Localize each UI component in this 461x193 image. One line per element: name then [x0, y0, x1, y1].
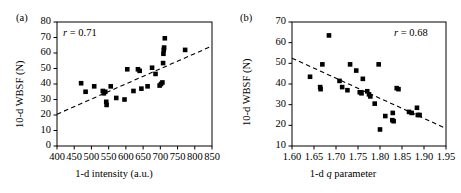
panel-b-x-axis-label: 1-d q parameter — [231, 168, 455, 179]
x-tick-label: 850 — [192, 151, 232, 162]
data-point — [108, 84, 113, 89]
data-point — [396, 87, 401, 92]
y-tick-label: 40 — [23, 77, 51, 88]
plot-frame — [292, 22, 446, 146]
data-point — [160, 80, 165, 85]
data-point — [114, 96, 119, 101]
y-tick-label: 80 — [23, 15, 51, 26]
data-point — [372, 101, 377, 106]
data-point — [417, 113, 422, 118]
data-point — [318, 87, 323, 92]
data-point — [137, 69, 142, 74]
y-tick-label: 60 — [23, 46, 51, 57]
data-point — [337, 79, 342, 84]
y-tick-label: 20 — [258, 118, 286, 129]
data-point — [348, 62, 353, 67]
data-point — [150, 65, 155, 70]
data-point — [383, 114, 388, 119]
y-tick-label: 10 — [23, 124, 51, 135]
y-tick-label: 10 — [258, 139, 286, 150]
data-point — [104, 103, 109, 108]
y-tick-label: 40 — [258, 77, 286, 88]
y-tick-label: 0 — [23, 139, 51, 150]
figure-container: (a) 10-d WBSF (N) 1-d intensity (a.u.) 4… — [0, 0, 461, 193]
correlation-annotation: r = 0.68 — [394, 27, 428, 38]
correlation-annotation: r = 0.71 — [63, 27, 97, 38]
panel-b-x-axis-label-prefix: 1-d — [310, 168, 327, 179]
data-point — [391, 119, 396, 124]
data-point — [145, 84, 150, 89]
data-point — [161, 61, 166, 66]
data-point — [125, 67, 130, 72]
data-point — [131, 89, 136, 94]
y-tick-label: 70 — [258, 15, 286, 26]
data-point — [361, 77, 366, 82]
data-point — [327, 33, 332, 38]
panel-a: (a) 10-d WBSF (N) 1-d intensity (a.u.) 4… — [0, 0, 230, 193]
correlation-value: = 0.68 — [398, 27, 428, 38]
data-point — [79, 81, 84, 86]
data-point — [376, 62, 381, 67]
y-tick-label: 50 — [258, 56, 286, 67]
y-tick-label: 30 — [23, 93, 51, 104]
data-point — [92, 84, 97, 89]
data-point — [378, 127, 383, 132]
data-point — [345, 88, 350, 93]
data-point — [415, 105, 420, 110]
y-tick-label: 70 — [23, 31, 51, 42]
data-point — [162, 45, 167, 50]
y-tick-label: 20 — [23, 108, 51, 119]
x-tick-label: 1.95 — [426, 151, 461, 162]
data-point — [359, 91, 364, 96]
data-point — [390, 111, 395, 116]
data-point — [308, 74, 313, 79]
data-point — [122, 97, 127, 102]
data-point — [340, 85, 345, 90]
data-point — [83, 89, 88, 94]
y-tick-label: 60 — [258, 36, 286, 47]
data-point — [320, 62, 325, 67]
data-point — [409, 111, 414, 116]
data-point — [183, 48, 188, 53]
panel-b-x-axis-label-suffix: parameter — [332, 168, 377, 179]
correlation-value: = 0.71 — [67, 27, 97, 38]
data-point — [354, 68, 359, 73]
panel-b: (b) 10-d WBSF (N) 1-d q parameter 1.601.… — [231, 0, 461, 193]
data-point — [139, 86, 144, 91]
data-point — [103, 89, 108, 94]
data-point — [153, 72, 158, 77]
y-tick-label: 50 — [23, 62, 51, 73]
panel-a-x-axis-label: 1-d intensity (a.u.) — [0, 168, 228, 179]
panel-a-x-axis-label-prefix: 1-d intensity (a.u.) — [75, 168, 153, 179]
y-tick-label: 30 — [258, 98, 286, 109]
trendline — [57, 46, 212, 114]
data-point — [368, 94, 373, 99]
data-point — [163, 36, 168, 41]
